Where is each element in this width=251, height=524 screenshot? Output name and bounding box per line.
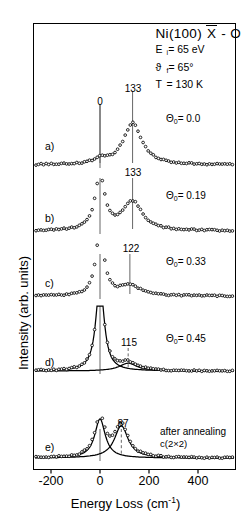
peak-label-d-115: 115 [121, 337, 137, 348]
x-axis-title: Energy Loss (cm-1) [0, 495, 251, 511]
coverage-label-d: Θ0= 0.45 [166, 333, 206, 345]
coverage-value: = 0.33 [178, 256, 206, 267]
coverage-value: = 0.45 [178, 333, 206, 344]
coverage-theta: Θ [166, 190, 174, 201]
coverage-label-a: Θ0= 0.0 [166, 113, 200, 125]
coverage-theta: Θ [166, 113, 174, 124]
curve-label-b: b) [45, 212, 54, 224]
x-axis-title-text: Energy Loss (cm [71, 496, 169, 511]
xtick-label--200: -200 [38, 474, 63, 488]
peak-label-b-133: 133 [125, 167, 142, 178]
annealing-annotation: after annealing c(2×2) [160, 426, 226, 450]
y-axis-title: Intensity (arb. units) [16, 256, 31, 370]
x-axis-title-paren: ) [176, 496, 180, 511]
hreels-figure: Ni(100) X - O Ei= 65 eV ϑf= 65° T= 130 K… [0, 0, 251, 524]
coverage-label-b: Θ0= 0.19 [166, 190, 206, 202]
peak-label-e-87: 87 [117, 418, 128, 429]
curve-label-c: c) [45, 277, 54, 289]
annotation-line-2: c(2×2) [160, 438, 226, 450]
coverage-theta: Θ [166, 333, 174, 344]
coverage-theta: Θ [166, 256, 174, 267]
curve-label-d: d) [45, 356, 54, 368]
peak-label-a-elastic: 0 [97, 96, 103, 107]
curve-label-a: a) [45, 140, 54, 152]
curve-label-e: e) [45, 441, 54, 453]
peak-label-a-133: 133 [125, 83, 142, 94]
x-axis-title-exponent: -1 [168, 495, 176, 505]
coverage-label-c: Θ0= 0.33 [166, 256, 206, 268]
spectra-group [35, 92, 234, 474]
coverage-value: = 0.0 [178, 113, 201, 124]
xtick-label-400: 400 [188, 474, 209, 488]
annotation-line-1: after annealing [160, 426, 226, 438]
peak-label-c-122: 122 [123, 243, 140, 254]
coverage-value: = 0.19 [178, 190, 206, 201]
xtick-label-200: 200 [139, 474, 160, 488]
xtick-label-0: 0 [97, 474, 104, 488]
